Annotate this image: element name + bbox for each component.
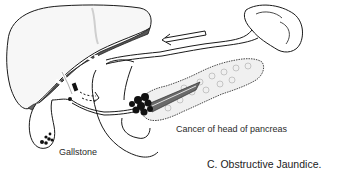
gallstone-label: Gallstone: [59, 147, 97, 157]
spleen: [244, 5, 302, 52]
pancreatic-cancer-label: Cancer of head of pancreas: [176, 124, 287, 134]
obstructive-jaundice-illustration: [0, 0, 352, 176]
bile-flow-arrow: [72, 83, 99, 102]
figure-caption: C. Obstructive Jaundice.: [207, 158, 321, 170]
flow-arrow: [162, 31, 206, 45]
gallbladder: [29, 99, 70, 148]
pancreas: [139, 59, 263, 121]
common-bile-duct: [68, 97, 138, 115]
